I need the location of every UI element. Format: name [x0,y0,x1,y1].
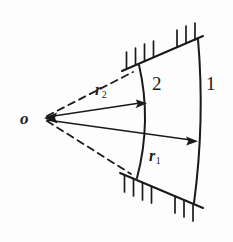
radius-label-r1: r1 [149,148,161,166]
upper-boundary-line [122,36,203,71]
lower-boundary-group [120,173,203,221]
inner-arc [137,65,145,178]
radius-label-r2-subscript: 2 [101,89,107,100]
upper-hatch-ticks [127,23,196,69]
figure-container: o 2 1 r2 r1 [0,0,233,242]
upper-boundary-group [122,23,203,71]
region-label-2: 2 [152,74,162,93]
upper-dashed-radius [47,72,133,116]
lower-dashed-radius [47,121,131,174]
sector-diagram-svg [0,0,233,242]
radius-arrow-r1 [47,120,198,146]
lower-boundary-line [120,173,203,208]
radius-label-r1-subscript: 1 [155,155,161,166]
lower-hatch-ticks [125,175,194,221]
radius-label-r2: r2 [95,82,107,100]
region-label-1: 1 [206,74,216,93]
outer-arc [194,39,201,203]
origin-label: o [20,110,29,127]
